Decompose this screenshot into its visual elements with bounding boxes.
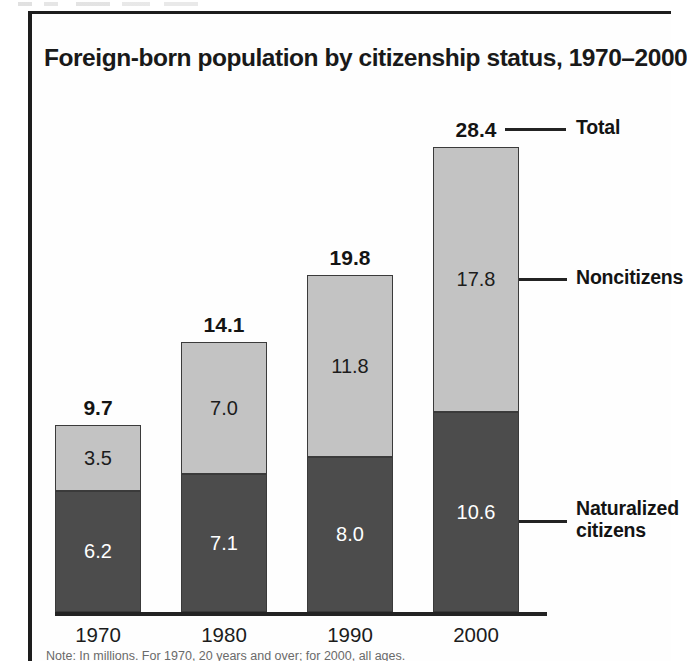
chart-footnote: Note: In millions. For 1970, 20 years an… xyxy=(46,650,606,661)
bar-segment-noncitizens-1990[interactable]: 11.8 xyxy=(307,275,393,457)
leader-line-noncitizens xyxy=(519,278,567,281)
x-tick-label-1970: 1970 xyxy=(48,623,148,647)
callout-noncitizens: Noncitizens xyxy=(576,266,683,288)
bar-segment-naturalized-1980[interactable]: 7.1 xyxy=(181,474,267,612)
bar-total-label-1990: 19.8 xyxy=(307,246,393,270)
callout-naturalized-line1: Naturalized xyxy=(576,497,679,519)
scan-artifact-line xyxy=(18,2,198,6)
chart-footnote-text: Note: In millions. For 1970, 20 years an… xyxy=(46,650,606,661)
bar-segment-noncitizens-1970[interactable]: 3.5 xyxy=(55,425,141,491)
leader-line-total xyxy=(505,128,566,131)
callout-naturalized-citizens: Naturalized citizens xyxy=(576,497,679,541)
x-axis-line xyxy=(55,612,547,616)
bar-segment-naturalized-1990[interactable]: 8.0 xyxy=(307,457,393,612)
x-tick-label-1990: 1990 xyxy=(300,623,400,647)
bar-chart-plot-area: 9.7 3.5 6.2 1970 14.1 7.0 7.1 1980 19.8 … xyxy=(28,11,671,661)
callout-naturalized-line2: citizens xyxy=(576,519,679,541)
bar-segment-naturalized-2000[interactable]: 10.6 xyxy=(433,412,519,612)
leader-line-naturalized xyxy=(519,520,567,523)
bar-segment-noncitizens-1980[interactable]: 7.0 xyxy=(181,342,267,474)
callout-total: Total xyxy=(576,116,620,138)
bar-segment-naturalized-1970[interactable]: 6.2 xyxy=(55,491,141,612)
x-tick-label-2000: 2000 xyxy=(426,623,526,647)
bar-total-label-1980: 14.1 xyxy=(181,313,267,337)
bar-segment-noncitizens-2000[interactable]: 17.8 xyxy=(433,147,519,412)
x-tick-label-1980: 1980 xyxy=(174,623,274,647)
bar-total-label-1970: 9.7 xyxy=(55,396,141,420)
